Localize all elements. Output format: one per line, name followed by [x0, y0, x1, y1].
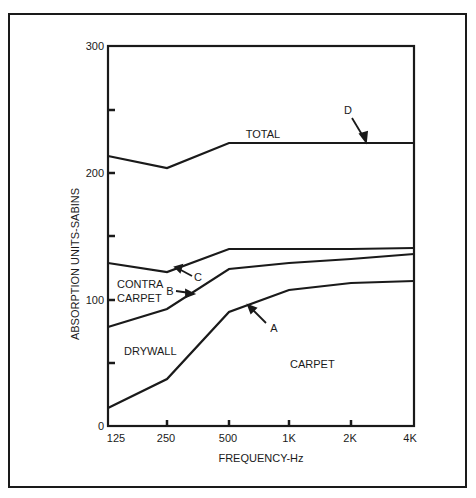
arrowhead-c [175, 265, 182, 272]
label-b: B [166, 285, 173, 297]
x-tick-500: 500 [219, 432, 237, 444]
label-contra: CONTRA [117, 278, 164, 290]
x-axis-title: FREQUENCY-Hz [218, 452, 303, 464]
y-tick-0: 0 [98, 420, 104, 432]
label-carpet: CARPET [290, 358, 335, 370]
absorption-chart: 300 200 100 0 125 250 500 1K 2K 4K FREQU… [0, 0, 476, 498]
label-d: D [344, 104, 352, 116]
line-b-drywall [108, 254, 414, 327]
y-tick-300: 300 [86, 40, 104, 52]
label-total: TOTAL [246, 128, 280, 140]
x-tick-1k: 1K [282, 432, 296, 444]
y-axis-title: ABSORPTION UNITS-SABINS [69, 188, 81, 340]
plot-area [108, 46, 414, 426]
x-tick-125: 125 [107, 432, 125, 444]
label-c: C [194, 271, 202, 283]
x-tick-2k: 2K [343, 432, 357, 444]
line-c-contra-carpet [108, 248, 414, 272]
label-a: A [270, 322, 278, 334]
label-contra-carpet: CARPET [117, 292, 162, 304]
x-tick-4k: 4K [403, 432, 417, 444]
line-d-total [108, 143, 414, 168]
arrowhead-d [360, 132, 367, 142]
label-drywall: DRYWALL [124, 345, 177, 357]
y-tick-200: 200 [86, 167, 104, 179]
y-tick-100: 100 [86, 294, 104, 306]
x-tick-250: 250 [157, 432, 175, 444]
